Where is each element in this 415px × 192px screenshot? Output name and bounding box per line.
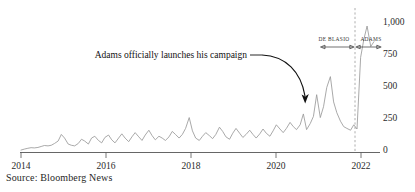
chart-figure: 1,000 750 500 250 0 2014 2016 2018 2020 … — [0, 0, 415, 192]
mentions-series-line — [21, 26, 374, 150]
y-axis-tick-labels: 1,000 750 500 250 0 — [383, 17, 405, 155]
x-axis-tick-labels: 2014 2016 2018 2020 2022 — [12, 161, 371, 171]
campaign-launch-annotation: Adams officially launches his campaign — [95, 50, 309, 104]
x-axis-tick-marks — [21, 153, 361, 159]
x-tick-label-2020: 2020 — [267, 161, 286, 171]
x-tick-label-2016: 2016 — [97, 161, 116, 171]
x-tick-label-2014: 2014 — [12, 161, 31, 171]
y-tick-label-750: 750 — [383, 49, 398, 59]
y-tick-label-0: 0 — [383, 145, 388, 155]
campaign-launch-label: Adams officially launches his campaign — [95, 50, 248, 60]
x-tick-label-2022: 2022 — [352, 161, 371, 171]
line-chart-canvas: 1,000 750 500 250 0 2014 2016 2018 2020 … — [0, 0, 415, 192]
y-tick-label-500: 500 — [383, 81, 398, 91]
era-de-blasio-bracket: DE BLASIO — [318, 36, 354, 49]
source-note: Source: Bloomberg News — [6, 172, 112, 183]
x-tick-label-2018: 2018 — [182, 161, 201, 171]
y-tick-label-1000: 1,000 — [383, 17, 405, 27]
campaign-launch-arrow-curve — [262, 55, 305, 96]
y-tick-label-250: 250 — [383, 113, 398, 123]
era-de-blasio-label: DE BLASIO — [318, 36, 349, 42]
era-adams-bracket: ADAMS — [356, 36, 382, 49]
era-adams-label: ADAMS — [360, 36, 381, 42]
